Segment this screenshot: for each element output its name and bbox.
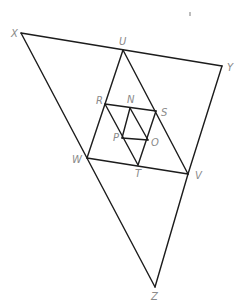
segment-vz [155, 174, 188, 287]
label-p: P [113, 132, 120, 143]
label-o: O [151, 137, 159, 148]
label-w: W [72, 154, 83, 165]
scan-artifact [189, 12, 191, 16]
segment-np [122, 108, 130, 138]
label-s: S [161, 107, 168, 118]
label-n: N [127, 94, 135, 105]
segment-yv [188, 66, 222, 174]
label-v: V [195, 170, 203, 181]
label-y: Y [227, 62, 234, 73]
triangle-edges [21, 33, 222, 287]
segment-no [130, 108, 148, 140]
label-t: T [135, 168, 142, 179]
segment-po [122, 138, 148, 140]
vertex-labels: XUYVWZRNSPOT [10, 28, 234, 302]
label-x: X [10, 28, 19, 39]
geometry-diagram: XUYVWZRNSPOT [0, 0, 249, 308]
label-u: U [119, 36, 127, 47]
label-r: R [96, 95, 103, 106]
label-z: Z [150, 291, 159, 302]
